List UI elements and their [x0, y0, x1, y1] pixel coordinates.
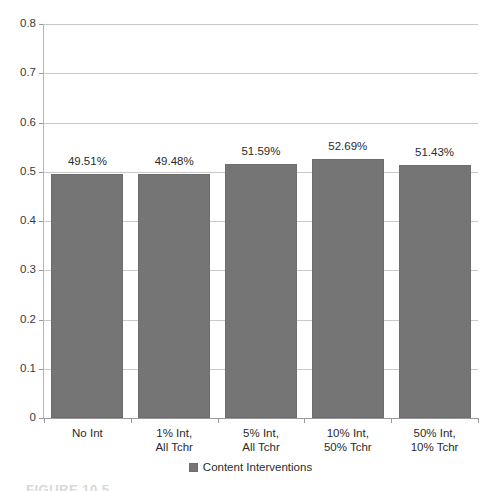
x-axis-category-label-line: 5% Int,: [218, 426, 305, 440]
bar-value-label: 52.69%: [328, 141, 367, 153]
x-axis-category-label-line: No Int: [44, 426, 131, 440]
y-axis-tick-label: 0.7: [0, 67, 36, 79]
x-axis-category-label-line: 10% Int,: [304, 426, 391, 440]
x-axis-tick: [44, 418, 45, 423]
y-axis-tick-label: 0.3: [0, 264, 36, 276]
bar-value-label: 51.59%: [241, 146, 280, 158]
x-axis-tick: [304, 418, 305, 423]
x-axis-category-label-line: 1% Int,: [131, 426, 218, 440]
x-axis-tick: [478, 418, 479, 423]
y-axis-tick-label: 0: [0, 412, 36, 424]
bar-value-label: 49.51%: [68, 156, 107, 168]
bar-slot: 51.43%: [391, 24, 478, 418]
bar[interactable]: [399, 165, 471, 418]
x-axis-tick: [218, 418, 219, 423]
y-axis-tick-label: 0.5: [0, 166, 36, 178]
bars-layer: 49.51%49.48%51.59%52.69%51.43%: [44, 24, 478, 418]
bar-chart: 00.10.20.30.40.50.60.70.8 49.51%49.48%51…: [0, 0, 501, 491]
bar[interactable]: [138, 174, 210, 418]
x-axis-category-label-line: 10% Tchr: [391, 440, 478, 454]
x-axis-tick: [131, 418, 132, 423]
y-axis-tick-label: 0.1: [0, 363, 36, 375]
gridline: [44, 418, 478, 419]
y-axis-tick-label: 0.6: [0, 117, 36, 129]
x-axis-category-label-line: 50% Int,: [391, 426, 478, 440]
bar-slot: 52.69%: [304, 24, 391, 418]
y-axis-tick-label: 0.8: [0, 18, 36, 30]
bar-value-label: 51.43%: [415, 147, 454, 159]
x-axis-category-label: 5% Int,All Tchr: [218, 426, 305, 454]
y-axis-tick-label: 0.4: [0, 215, 36, 227]
bar-value-label: 49.48%: [155, 156, 194, 168]
x-axis-tick: [391, 418, 392, 423]
legend-swatch-icon: [189, 463, 198, 472]
bar-slot: 49.48%: [131, 24, 218, 418]
bar[interactable]: [51, 174, 123, 418]
x-axis-category-label-line: 50% Tchr: [304, 440, 391, 454]
x-axis-category-label-line: All Tchr: [218, 440, 305, 454]
x-axis-category-label: 50% Int,10% Tchr: [391, 426, 478, 454]
x-axis-category-label: 10% Int,50% Tchr: [304, 426, 391, 454]
legend-label: Content Interventions: [203, 462, 312, 474]
x-axis-category-label: 1% Int,All Tchr: [131, 426, 218, 454]
chart-legend: Content Interventions: [0, 462, 501, 474]
bar[interactable]: [225, 164, 297, 418]
bar-slot: 49.51%: [44, 24, 131, 418]
bar-slot: 51.59%: [218, 24, 305, 418]
figure-caption-cutoff: FIGURE 10.5: [26, 483, 110, 491]
bar[interactable]: [312, 159, 384, 418]
x-axis-category-label-line: All Tchr: [131, 440, 218, 454]
x-axis-category-label: No Int: [44, 426, 131, 440]
y-axis-tick-label: 0.2: [0, 314, 36, 326]
